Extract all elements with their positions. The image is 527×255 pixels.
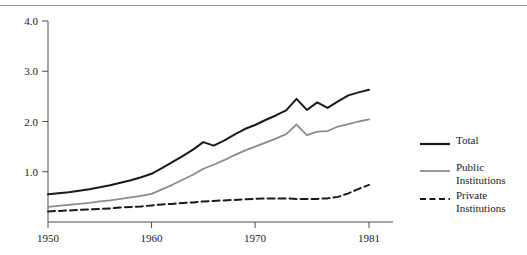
y-tick-label: 3.0 [24, 65, 38, 77]
chart-figure: 1.02.03.04.01950196019701981 Total Publi… [0, 0, 527, 255]
y-tick-label: 1.0 [24, 166, 38, 178]
x-tick-label: 1950 [37, 232, 60, 244]
line-chart-plot: 1.02.03.04.01950196019701981 [0, 0, 527, 255]
x-tick-label: 1981 [358, 232, 380, 244]
legend-label-public: Public Institutions [456, 161, 506, 186]
x-tick-label: 1970 [244, 232, 267, 244]
x-tick-label: 1960 [141, 232, 164, 244]
series-line-total [48, 90, 369, 195]
chart-series-lines [48, 90, 369, 212]
y-tick-label: 4.0 [24, 15, 38, 27]
legend-label-total: Total [456, 134, 478, 147]
legend-label-private: Private Institutions [456, 189, 506, 214]
series-line-public [48, 119, 369, 206]
y-tick-label: 2.0 [24, 116, 38, 128]
